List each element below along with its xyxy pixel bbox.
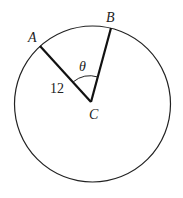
label-a: A	[27, 30, 37, 45]
length-label-ca: 12	[50, 81, 64, 96]
circle	[15, 26, 171, 182]
label-b: B	[106, 10, 115, 25]
radius-ca	[40, 46, 91, 102]
circle-diagram: A B C θ 12	[0, 0, 183, 198]
angle-theta-label: θ	[79, 59, 86, 74]
radius-cb	[91, 28, 111, 102]
label-c: C	[89, 107, 99, 122]
angle-arc	[73, 76, 98, 82]
